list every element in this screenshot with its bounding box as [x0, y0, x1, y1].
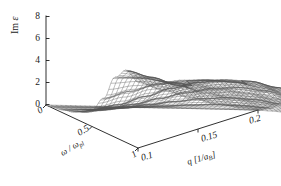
omega-tick-0	[43, 105, 46, 108]
q-axis-ticks	[138, 110, 258, 152]
z-tick-label-6: 6	[26, 34, 40, 44]
z-tick-label-4: 4	[26, 56, 40, 66]
z-axis-title-symbol: ε	[9, 16, 20, 20]
z-tick-label-2: 2	[26, 78, 40, 88]
z-axis-title: Im ε	[10, 16, 20, 34]
z-tick-label-8: 8	[26, 12, 40, 22]
surface-plot-figure: 8 6 4 2 0 0 0.5 1 0.1 0.15 0.2 Im ε ω / …	[0, 0, 281, 186]
z-axis-title-prefix: Im	[9, 20, 20, 34]
z-axis-ticks	[46, 17, 50, 105]
surface-mesh	[46, 70, 281, 126]
